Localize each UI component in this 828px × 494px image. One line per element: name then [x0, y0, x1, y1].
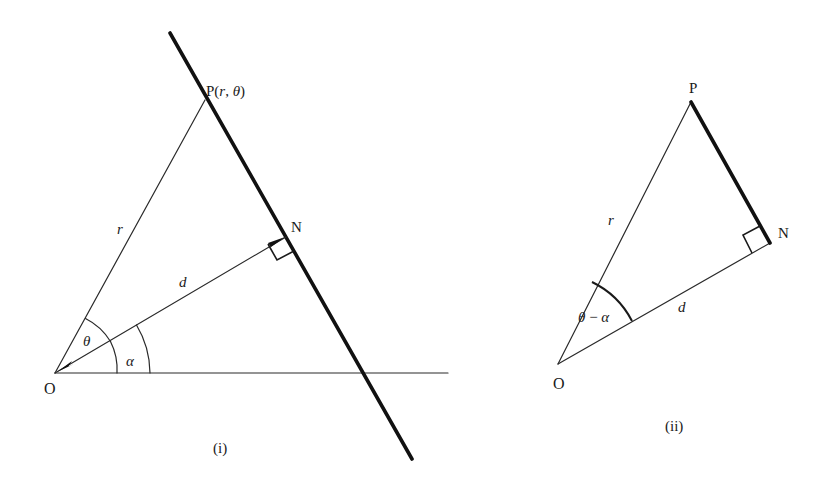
- point-n-ii-label: N: [778, 226, 789, 241]
- origin-o-label: O: [44, 381, 56, 397]
- segment-d-label: d: [179, 275, 187, 290]
- minus-symbol: −: [585, 309, 601, 325]
- segment-on-ii: [558, 243, 770, 364]
- point-p-ii-label: P: [689, 81, 697, 96]
- panel-i: [55, 33, 448, 459]
- caption-ii: (ii): [665, 419, 683, 434]
- segment-d-ii-label: d: [678, 300, 686, 315]
- p-separator: ,: [225, 83, 233, 99]
- point-n-label: N: [291, 220, 302, 235]
- arrowhead-n-icon: [268, 237, 285, 247]
- angle-theta-minus-alpha-label: θ − α: [578, 310, 609, 325]
- segment-r-ii-label: r: [608, 213, 614, 228]
- segment-on: [55, 237, 286, 373]
- alpha-arc: [137, 325, 151, 373]
- segment-op: [55, 100, 205, 373]
- p-close-paren: ): [240, 83, 245, 99]
- segment-r-label: r: [117, 222, 123, 237]
- point-p-label: P(r, θ): [206, 84, 245, 99]
- p-theta-coord: θ: [233, 83, 240, 99]
- caption-i: (i): [213, 441, 227, 456]
- polar-line-diagram: [0, 0, 828, 494]
- segment-pn-ii: [691, 102, 770, 243]
- angle-theta-label: θ: [83, 334, 90, 349]
- alpha-symbol: α: [601, 309, 609, 325]
- origin-o-ii-label: O: [553, 376, 565, 392]
- theta-arc-lower: [111, 342, 118, 374]
- right-angle-mark-ii-icon: [743, 226, 760, 253]
- angle-alpha-label: α: [126, 354, 134, 369]
